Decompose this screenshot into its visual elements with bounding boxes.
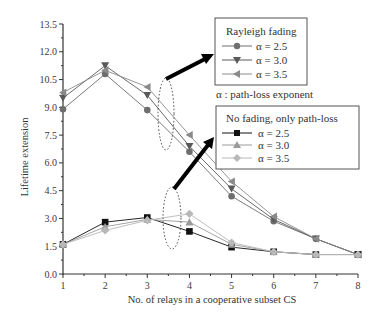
annotations [158, 54, 214, 249]
x-axis-title: No. of relays in a cooperative subset CS [128, 294, 297, 305]
square-marker-icon [234, 130, 240, 136]
line-chart: 0.01.53.04.56.07.59.010.512.013.51234567… [0, 0, 380, 324]
y-tick-label: 12.0 [40, 46, 58, 57]
nofading-highlight-ellipse [163, 187, 181, 249]
x-tick-label: 7 [313, 280, 318, 291]
y-tick-label: 6.0 [45, 157, 58, 168]
y-tick-label: 4.5 [45, 185, 58, 196]
x-tick-label: 3 [145, 280, 150, 291]
legend-nofading-item-2: α = 3.0 [258, 139, 290, 151]
circle-marker-icon [234, 43, 240, 49]
y-tick-label: 10.5 [40, 74, 58, 85]
y-tick-label: 13.5 [40, 19, 58, 30]
legend-rayleigh-item-2: α = 3.0 [256, 54, 288, 66]
legend-nofading: No fading, only path-loss α = 2.5 α = 3.… [216, 106, 359, 169]
legend-nofading-title: No fading, only path-loss [226, 112, 338, 124]
x-tick-label: 6 [271, 280, 276, 291]
legend-nofading-item-3: α = 3.5 [258, 152, 290, 164]
y-axis-title: Lifetime extension [19, 117, 30, 197]
x-tick-label: 5 [229, 280, 234, 291]
y-tick-label: 7.5 [45, 130, 58, 141]
y-tick-label: 0.0 [45, 269, 58, 280]
x-tick-label: 2 [103, 280, 108, 291]
rayleigh-arrow-shaft [166, 59, 205, 79]
legend-rayleigh-item-3: α = 3.5 [256, 68, 288, 80]
y-tick-label: 3.0 [45, 213, 58, 224]
series-diamond [59, 210, 362, 259]
legend-rayleigh-item-1: α = 2.5 [256, 40, 288, 52]
path-loss-note: α : path-loss exponent [216, 88, 313, 100]
y-tick-label: 9.0 [45, 102, 58, 113]
legend-rayleigh: Rayleigh fading α = 2.5 α = 3.0 α = 3.5 [215, 18, 307, 85]
x-tick-label: 1 [61, 280, 66, 291]
legend-rayleigh-title: Rayleigh fading [226, 25, 297, 37]
x-tick-label: 8 [356, 280, 361, 291]
y-tick-label: 1.5 [45, 241, 58, 252]
legend-nofading-item-1: α = 2.5 [258, 127, 290, 139]
legends: Rayleigh fading α = 2.5 α = 3.0 α = 3.5 … [215, 18, 359, 169]
x-tick-label: 4 [187, 280, 192, 291]
